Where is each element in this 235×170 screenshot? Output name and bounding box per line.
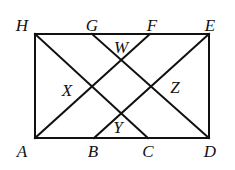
intersection-label-W: W	[114, 39, 128, 56]
point-label-F: F	[147, 17, 157, 34]
point-label-D: D	[204, 143, 216, 160]
intersection-label-X: X	[62, 82, 72, 99]
point-label-B: B	[88, 143, 98, 160]
point-label-C: C	[142, 143, 153, 160]
point-label-A: A	[17, 143, 27, 160]
intersection-label-Y: Y	[113, 119, 122, 136]
point-label-E: E	[205, 17, 215, 34]
geometry-diagram: HGFEABCDWXZY	[0, 0, 235, 170]
point-label-G: G	[86, 17, 98, 34]
point-label-H: H	[16, 17, 28, 34]
intersection-label-Z: Z	[170, 79, 179, 96]
diagram-lines	[0, 0, 235, 170]
